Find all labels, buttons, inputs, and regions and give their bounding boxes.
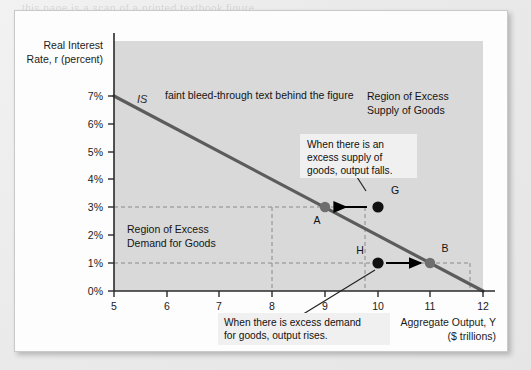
figure-page: faint bleed-through text behind the figu… xyxy=(14,10,508,352)
is-curve-label: IS xyxy=(137,93,148,105)
callout-supply-line2: excess supply of xyxy=(307,152,382,163)
y-tick-7: 7% xyxy=(88,90,103,102)
y-axis-title-line1: Real Interest xyxy=(43,39,103,51)
x-axis-title: Aggregate Output, Y ($ trillions) xyxy=(400,316,496,342)
region-demand-line1: Region of Excess xyxy=(127,223,209,235)
data-point-label-H: H xyxy=(356,244,364,256)
region-demand-line2: Demand for Goods xyxy=(127,237,216,249)
x-tick-8: 8 xyxy=(269,300,275,312)
screenshot-root: this page is a scan of a printed textboo… xyxy=(0,0,531,370)
x-tick-10: 10 xyxy=(372,300,384,312)
x-tick-12: 12 xyxy=(477,300,489,312)
y-axis-ticks xyxy=(108,96,114,291)
y-tick-labels: 0% 1% 2% 3% 4% 5% 6% 7% xyxy=(88,90,103,297)
y-tick-6: 6% xyxy=(88,118,103,130)
x-axis-title-line2: ($ trillions) xyxy=(448,330,496,342)
data-point-label-B: B xyxy=(441,242,448,254)
x-tick-5: 5 xyxy=(111,300,117,312)
data-point-H[interactable] xyxy=(372,257,383,268)
x-tick-7: 7 xyxy=(216,300,222,312)
x-axis-ticks xyxy=(114,291,483,297)
data-point-label-G: G xyxy=(391,184,399,196)
y-tick-3: 3% xyxy=(88,201,103,213)
x-tick-labels: 5 6 7 8 9 10 11 12 xyxy=(111,300,489,312)
callout-supply-line1: When there is an xyxy=(307,139,384,150)
data-point-A[interactable] xyxy=(320,202,330,212)
y-axis-title: Real Interest Rate, r (percent) xyxy=(27,39,104,65)
data-point-G[interactable] xyxy=(372,201,383,212)
plot-area-background xyxy=(114,41,483,291)
x-tick-11: 11 xyxy=(425,300,436,312)
data-point-B[interactable] xyxy=(425,258,435,268)
region-supply-line2: Supply of Goods xyxy=(367,104,445,116)
callout-demand-line1: When there is excess demand xyxy=(224,317,361,328)
y-tick-1: 1% xyxy=(88,257,103,269)
callout-demand-line2: for goods, output rises. xyxy=(224,330,328,341)
ghost-text-plot: faint bleed-through text behind the figu… xyxy=(165,89,354,101)
callout-supply-text: When there is an excess supply of goods,… xyxy=(307,139,393,176)
is-curve-figure: faint bleed-through text behind the figu… xyxy=(15,11,507,351)
region-supply-line1: Region of Excess xyxy=(367,90,449,102)
callout-supply-line3: goods, output falls. xyxy=(307,165,393,176)
y-tick-5: 5% xyxy=(88,146,103,158)
y-tick-4: 4% xyxy=(88,173,103,185)
y-axis-title-line2: Rate, r (percent) xyxy=(27,53,103,65)
y-tick-0: 0% xyxy=(88,285,103,297)
y-tick-2: 2% xyxy=(88,229,103,241)
x-tick-6: 6 xyxy=(164,300,170,312)
x-axis-title-line1: Aggregate Output, Y xyxy=(400,316,496,328)
data-point-label-A: A xyxy=(313,214,320,226)
